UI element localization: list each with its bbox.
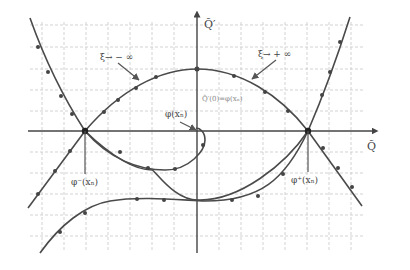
arch-top-point: [195, 67, 200, 72]
trajectories: [28, 17, 362, 253]
inner-spiral: [85, 128, 205, 170]
phase-portrait-diagram: Q̃′ Q̃ ξ→ − ∞ ξ→ + ∞ φ(xₙ) Q̃′(0)=φ(xₙ) …: [0, 0, 410, 270]
separatrix-right-incoming: [308, 131, 362, 206]
xi-plus-inf-label: ξ→ + ∞: [258, 49, 291, 59]
xi-minus-inf-label: ξ→ − ∞: [100, 52, 133, 62]
separatrix-left-incoming: [30, 18, 85, 131]
center-annotation-label: Q̃′(0)=φ(xₙ): [202, 94, 243, 103]
x-axis-label: Q̃: [367, 140, 376, 153]
phi-xn-label: φ(xₙ): [165, 109, 187, 119]
xi-plus-pointer: [252, 60, 276, 79]
y-axis-label: Q̃′: [204, 18, 216, 31]
separatrix-left-outgoing: [28, 131, 85, 208]
phi-minus-xn-label: φ⁻(xₙ): [71, 177, 98, 187]
phi-plus-xn-label: φ⁺(xₙ): [291, 175, 318, 185]
xi-minus-pointer: [118, 63, 139, 80]
phi-pointer: [180, 122, 196, 130]
axes: [28, 14, 375, 253]
